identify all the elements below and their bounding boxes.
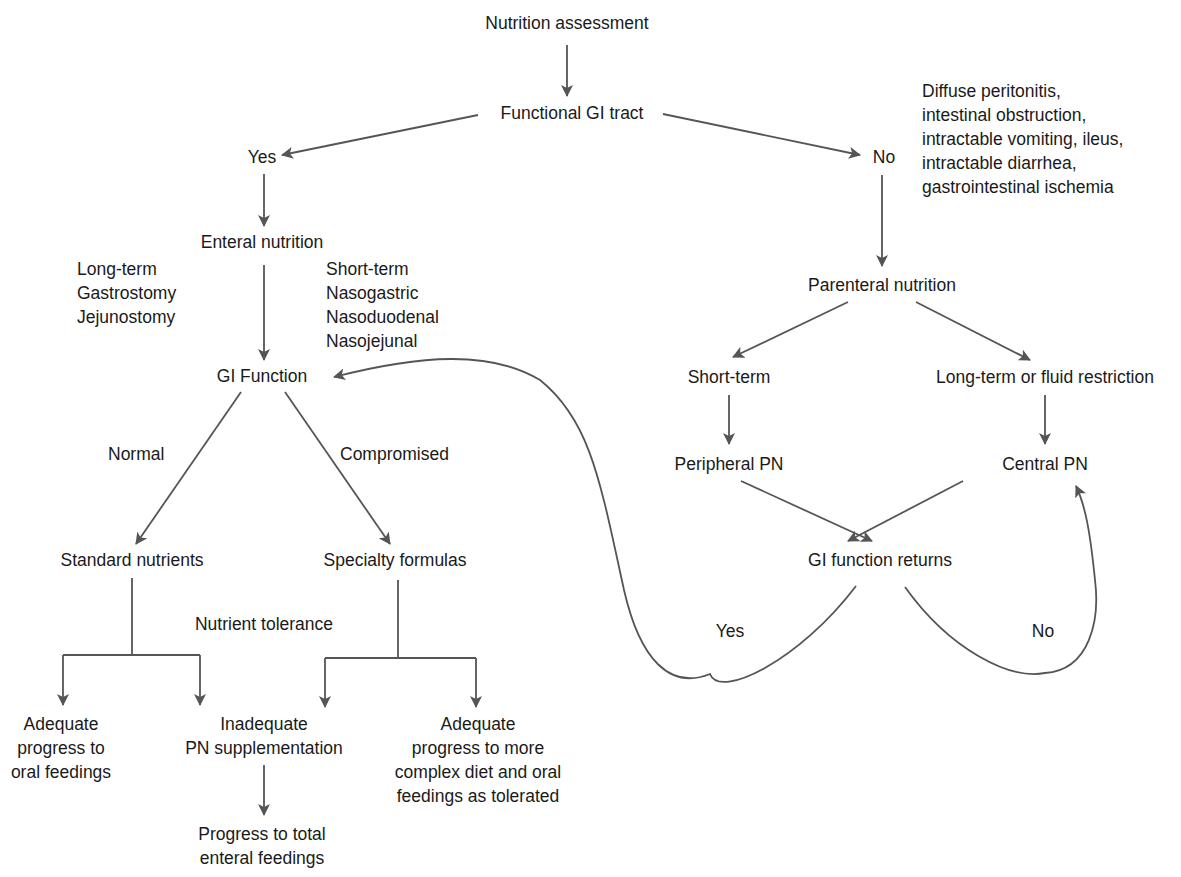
edge-gifunction-specialty [285,392,390,544]
node-line: enteral feedings [198,846,325,870]
edge-parenteral-long [916,302,1030,360]
label-normal: Normal [108,442,164,466]
access-item: Long-term [77,257,176,281]
access-item: Jejunostomy [77,305,176,329]
edge-parenteral-short [733,302,848,357]
edge-returns-yes-gifunction [334,359,856,682]
node-specialty-formulas: Specialty formulas [324,548,467,572]
access-item: Nasoduodenal [326,305,439,329]
node-line: oral feedings [11,760,111,784]
node-no: No [873,145,895,169]
no-conditions-list: Diffuse peritonitis, intestinal obstruct… [922,79,1123,199]
label-returns-no: No [1032,619,1054,643]
condition-item: intractable diarrhea, [922,151,1123,175]
node-central-pn: Central PN [1002,452,1088,476]
node-peripheral-pn: Peripheral PN [675,452,784,476]
node-adequate-complex: Adequate progress to more complex diet a… [395,712,561,808]
long-term-access-list: Long-term Gastrostomy Jejunostomy [77,257,176,329]
node-line: Progress to total [198,822,325,846]
condition-item: Diffuse peritonitis, [922,79,1123,103]
node-pn-short-term: Short-term [688,365,771,389]
access-item: Nasojejunal [326,329,439,353]
node-pn-long-term: Long-term or fluid restriction [936,365,1154,389]
node-line: PN supplementation [185,736,343,760]
node-parenteral-nutrition: Parenteral nutrition [808,273,956,297]
node-line: feedings as tolerated [395,784,561,808]
node-line: progress to more [395,736,561,760]
node-nutrition-assessment: Nutrition assessment [485,11,648,35]
node-functional-gi-tract: Functional GI tract [501,101,644,125]
access-item: Short-term [326,257,439,281]
node-enteral-nutrition: Enteral nutrition [201,230,324,254]
node-line: Adequate [11,712,111,736]
node-line: complex diet and oral [395,760,561,784]
edge-functional-yes [282,115,478,155]
node-line: Inadequate [185,712,343,736]
node-yes: Yes [248,145,277,169]
node-gi-function-returns: GI function returns [808,548,952,572]
edge-central-returns [848,481,963,541]
condition-item: intractable vomiting, ileus, [922,127,1123,151]
edge-functional-no [663,114,860,155]
condition-item: intestinal obstruction, [922,103,1123,127]
label-compromised: Compromised [340,442,449,466]
label-nutrient-tolerance: Nutrient tolerance [195,612,333,636]
edge-gifunction-standard [136,392,241,544]
label-returns-yes: Yes [716,619,745,643]
node-progress-total: Progress to total enteral feedings [198,822,325,870]
node-adequate-oral: Adequate progress to oral feedings [11,712,111,784]
short-term-access-list: Short-term Nasogastric Nasoduodenal Naso… [326,257,439,353]
condition-item: gastrointestinal ischemia [922,175,1123,199]
node-inadequate: Inadequate PN supplementation [185,712,343,760]
access-item: Gastrostomy [77,281,176,305]
node-line: progress to [11,736,111,760]
edge-peripheral-returns [741,481,872,541]
node-line: Adequate [395,712,561,736]
edge-returns-no-central [905,486,1096,674]
access-item: Nasogastric [326,281,439,305]
node-gi-function: GI Function [217,364,307,388]
node-standard-nutrients: Standard nutrients [60,548,203,572]
